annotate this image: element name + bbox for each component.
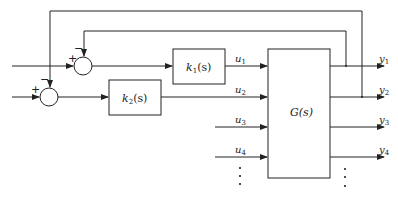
sum2-plus: + xyxy=(31,83,40,96)
u4-label: u4 xyxy=(235,144,246,157)
y4-label: y4 xyxy=(378,144,390,157)
y1-label: y1 xyxy=(378,53,389,66)
y3-label: y3 xyxy=(378,114,389,127)
k2-label: k2(s) xyxy=(122,92,147,106)
u3-label: u3 xyxy=(235,114,246,127)
input-ellipsis xyxy=(239,167,241,185)
k1-label: k1(s) xyxy=(186,61,211,75)
diagram-canvas: k1(s) k2(s) G(s) + − + − u1 u2 u3 u4 y1 … xyxy=(0,0,398,200)
y2-label: y2 xyxy=(378,84,389,97)
sum1-minus: − xyxy=(74,42,83,55)
output-ellipsis xyxy=(344,168,346,187)
u2-label: u2 xyxy=(235,84,246,97)
u1-label: u1 xyxy=(235,53,246,66)
g-label: G(s) xyxy=(290,106,313,119)
sum2-minus: − xyxy=(40,73,49,86)
block-diagram: k1(s) k2(s) G(s) + − + − u1 u2 u3 u4 y1 … xyxy=(0,0,398,200)
sum-junction-2 xyxy=(40,88,58,106)
